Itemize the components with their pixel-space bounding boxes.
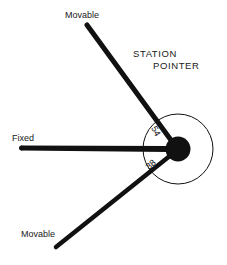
fixed-label: Fixed — [12, 134, 34, 143]
station-pointer-diagram: 54 38 — [0, 0, 227, 265]
lower-movable-arm — [56, 151, 176, 247]
title-line-1: STATION — [133, 49, 177, 59]
center-hub — [166, 137, 191, 162]
upper-movable-label: Movable — [65, 11, 99, 20]
fixed-arm — [21, 146, 168, 153]
upper-movable-arm — [87, 25, 176, 147]
title-line-2: POINTER — [153, 61, 199, 71]
lower-movable-label: Movable — [21, 230, 55, 239]
